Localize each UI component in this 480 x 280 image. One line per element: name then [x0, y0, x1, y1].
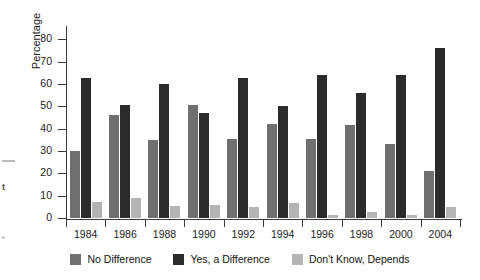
plot-area [66, 28, 460, 218]
bar [159, 84, 169, 218]
y-tick-label: 0 [6, 212, 52, 224]
y-tick-label-text: 60 [8, 78, 52, 89]
bar [70, 151, 80, 218]
y-tick-label: 10 [6, 190, 52, 202]
legend-swatch [70, 254, 81, 265]
x-tick-label: 1984 [66, 229, 105, 240]
y-tick-label: 60 [6, 78, 52, 90]
bar [238, 78, 248, 218]
bar [407, 215, 417, 218]
legend-item[interactable]: No Difference [70, 254, 151, 265]
bar [446, 207, 456, 218]
bar-group [421, 28, 460, 218]
x-axis-line [66, 219, 462, 220]
bar-group [66, 28, 105, 218]
y-tick-label: 30 [6, 145, 52, 157]
y-tick-label-text: 70 [8, 56, 52, 67]
bar [345, 125, 355, 218]
bar [328, 215, 338, 218]
legend-label: No Difference [87, 254, 151, 265]
bar [289, 203, 299, 218]
x-tick-mark [224, 220, 225, 227]
bar [210, 205, 220, 218]
x-tick-mark [145, 220, 146, 227]
bar [396, 75, 406, 218]
y-tick-label-text: 50 [8, 100, 52, 111]
bar-group [263, 28, 302, 218]
x-tick-label: 1996 [302, 229, 341, 240]
bar-group [184, 28, 223, 218]
bar [131, 198, 141, 218]
x-tick-mark [263, 220, 264, 227]
y-tick-label-text: 10 [8, 190, 52, 201]
bar-chart: Percentage 01020304050607080 19841986198… [0, 0, 480, 280]
x-tick-label: 1986 [105, 229, 144, 240]
x-tick-label: 2000 [381, 229, 420, 240]
y-tick-label-text: 30 [8, 145, 52, 156]
y-tick-label: 80 [6, 33, 52, 45]
bar [92, 202, 102, 218]
bar-group [381, 28, 420, 218]
legend-label: Yes, a Difference [190, 254, 269, 265]
x-tick-mark [460, 220, 461, 227]
x-tick-mark [184, 220, 185, 227]
legend-item[interactable]: Yes, a Difference [173, 254, 269, 265]
bar [435, 48, 445, 218]
bar [367, 212, 377, 218]
bar-group [105, 28, 144, 218]
x-tick-label: 1992 [224, 229, 263, 240]
x-tick-mark [381, 220, 382, 227]
y-tick-mark [58, 218, 67, 219]
x-tick-mark [421, 220, 422, 227]
y-tick-label: 70 [6, 56, 52, 68]
y-tick-label-text: 40 [8, 123, 52, 134]
x-tick-mark [105, 220, 106, 227]
bar [278, 106, 288, 218]
bar-group [224, 28, 263, 218]
bar [148, 140, 158, 218]
x-tick-label: 1990 [184, 229, 223, 240]
x-tick-label: 1998 [342, 229, 381, 240]
bar [306, 139, 316, 218]
bar [249, 207, 259, 218]
legend-item[interactable]: Don't Know, Depends [292, 254, 410, 265]
x-tick-mark [302, 220, 303, 227]
legend-label: Don't Know, Depends [309, 254, 410, 265]
bar [81, 78, 91, 218]
x-tick-mark [342, 220, 343, 227]
bar [199, 113, 209, 218]
legend-swatch [173, 254, 184, 265]
y-tick-label-text: 0 [8, 212, 52, 223]
bar [356, 93, 366, 218]
chart-legend: No DifferenceYes, a DifferenceDon't Know… [0, 254, 480, 265]
x-tick-label: 1988 [145, 229, 184, 240]
x-tick-label: 1994 [263, 229, 302, 240]
bar [424, 171, 434, 218]
bar [109, 115, 119, 218]
bar [120, 105, 130, 218]
x-tick-label: 2004 [421, 229, 460, 240]
y-tick-label: 20 [6, 167, 52, 179]
y-tick-label-text: 80 [8, 33, 52, 44]
bar [170, 206, 180, 218]
bar [385, 144, 395, 218]
bar [317, 75, 327, 218]
bar-group [302, 28, 341, 218]
bar [267, 124, 277, 218]
legend-swatch [292, 254, 303, 265]
bar [188, 105, 198, 218]
y-tick-label-text: 20 [8, 167, 52, 178]
bar-group [342, 28, 381, 218]
y-tick-label: 50 [6, 100, 52, 112]
x-tick-mark [66, 220, 67, 227]
y-tick-label: 40 [6, 123, 52, 135]
bar [227, 139, 237, 218]
bar-group [145, 28, 184, 218]
